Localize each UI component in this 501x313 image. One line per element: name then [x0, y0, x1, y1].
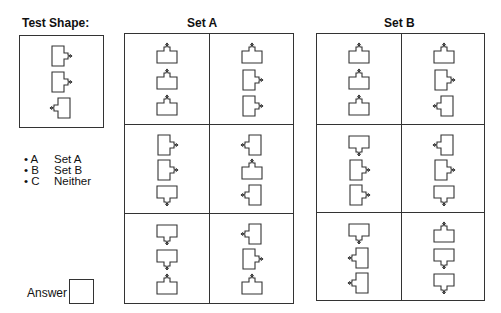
set-a-cell	[210, 125, 294, 213]
set-b-cell	[402, 125, 485, 212]
set-b-cell	[402, 34, 485, 124]
puzzle-shape-up-icon	[238, 157, 266, 181]
puzzle-shape-down-icon	[153, 182, 181, 206]
puzzle-shape-right-icon	[47, 69, 75, 93]
puzzle-shape-up-icon	[153, 67, 181, 91]
puzzle-shape-left-icon	[430, 132, 458, 156]
option-label: Neither	[54, 176, 91, 187]
puzzle-shape-down-icon	[430, 270, 458, 294]
set-a-cell	[125, 214, 209, 303]
puzzle-shape-left-icon	[345, 245, 373, 269]
set-a-title: Set A	[187, 16, 217, 30]
puzzle-shape-down-icon	[345, 132, 373, 156]
puzzle-shape-right-icon	[430, 67, 458, 91]
set-a-cell	[210, 214, 294, 303]
puzzle-shape-down-icon	[345, 220, 373, 244]
puzzle-shape-right-icon	[153, 132, 181, 156]
set-b-cell	[317, 34, 401, 124]
option-key: • C	[24, 176, 54, 187]
puzzle-shape-right-icon	[345, 157, 373, 181]
answer-input-box[interactable]	[69, 279, 94, 304]
set-b-cell	[317, 125, 401, 212]
puzzle-shape-down-icon	[153, 246, 181, 270]
puzzle-shape-right-icon	[238, 93, 266, 117]
set-b-cell	[317, 213, 401, 300]
puzzle-shape-left-icon	[345, 270, 373, 294]
puzzle-shape-right-icon	[430, 157, 458, 181]
puzzle-shape-up-icon	[153, 93, 181, 117]
set-a-grid	[124, 33, 294, 304]
set-b-title: Set B	[384, 16, 415, 30]
puzzle-shape-left-icon	[430, 93, 458, 117]
puzzle-shape-up-icon	[430, 220, 458, 244]
set-b-cell	[402, 213, 485, 300]
test-shape-box	[19, 35, 104, 128]
puzzle-shape-up-icon	[345, 93, 373, 117]
puzzle-shape-up-icon	[345, 67, 373, 91]
puzzle-shape-up-icon	[345, 41, 373, 65]
puzzle-shape-right-icon	[153, 157, 181, 181]
puzzle-shape-right-icon	[238, 67, 266, 91]
puzzle-shape-up-icon	[238, 272, 266, 296]
set-a-cell	[125, 125, 209, 213]
puzzle-shape-up-icon	[430, 41, 458, 65]
options-legend: • A Set A • B Set B • C Neither	[24, 154, 91, 187]
puzzle-shape-down-icon	[153, 221, 181, 245]
option-c: • C Neither	[24, 176, 91, 187]
puzzle-shape-up-icon	[238, 41, 266, 65]
puzzle-shape-left-icon	[47, 95, 75, 119]
puzzle-shape-right-icon	[345, 182, 373, 206]
puzzle-shape-up-icon	[153, 41, 181, 65]
puzzle-shape-down-icon	[430, 245, 458, 269]
puzzle-shape-right-icon	[47, 43, 75, 67]
set-b-grid	[316, 33, 485, 301]
test-shape-cell	[20, 36, 102, 126]
puzzle-shape-right-icon	[238, 246, 266, 270]
puzzle-shape-down-icon	[430, 182, 458, 206]
test-shape-title: Test Shape:	[22, 16, 89, 30]
set-a-cell	[125, 34, 209, 124]
puzzle-shape-left-icon	[238, 132, 266, 156]
puzzle-shape-up-icon	[153, 272, 181, 296]
puzzle-shape-left-icon	[238, 221, 266, 245]
set-a-cell	[210, 34, 294, 124]
answer-label: Answer	[27, 286, 67, 300]
puzzle-shape-left-icon	[238, 182, 266, 206]
